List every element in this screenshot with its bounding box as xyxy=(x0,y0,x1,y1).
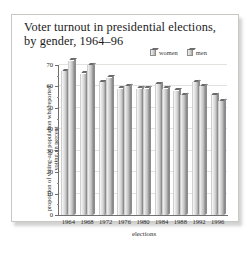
y-axis-tick-label: 30 xyxy=(39,147,53,154)
x-axis-line xyxy=(58,215,228,216)
bar-side-face xyxy=(224,99,226,215)
y-axis-tick xyxy=(55,86,59,87)
y-axis-minor-tick xyxy=(57,161,60,162)
bar-women-1964 xyxy=(61,71,67,215)
bar-women-1992 xyxy=(192,82,198,215)
bar-side-face xyxy=(93,63,95,215)
plot-area xyxy=(59,65,227,215)
bar-men-1964 xyxy=(68,61,74,215)
bar-side-face xyxy=(168,86,170,215)
bar-women-1996 xyxy=(211,95,217,215)
x-axis-tick-label: 1996 xyxy=(207,218,229,225)
x-axis-tick-labels: 196419681972197619801984198819921996 xyxy=(59,218,229,230)
bar-women-1968 xyxy=(80,74,86,215)
bar-side-face xyxy=(112,75,114,215)
chart-legend: women men xyxy=(150,49,207,56)
bar-side-face xyxy=(205,84,207,215)
y-axis-tick-label: 40 xyxy=(39,125,53,132)
y-axis-tick xyxy=(55,151,59,152)
bar-women-1984 xyxy=(155,84,161,215)
y-axis-tick xyxy=(55,65,59,66)
bar-side-face xyxy=(149,86,151,215)
chart-title: Voter turnout in presidential elections,… xyxy=(24,21,230,48)
y-axis-tick-label: 10 xyxy=(39,190,53,197)
bar-swatch-icon xyxy=(150,49,156,56)
bar-women-1980 xyxy=(136,89,142,215)
y-axis-tick-label: 20 xyxy=(39,168,53,175)
bar-men-1984 xyxy=(162,89,168,215)
y-axis-tick xyxy=(55,129,59,130)
bar-men-1968 xyxy=(87,65,93,215)
x-axis-label: elections xyxy=(59,230,229,237)
legend-item-men: men xyxy=(187,49,207,56)
legend-item-women: women xyxy=(150,49,178,56)
y-axis-minor-tick xyxy=(57,97,60,98)
y-axis-minor-tick xyxy=(57,76,60,77)
bar-women-1988 xyxy=(173,91,179,215)
legend-label-women: women xyxy=(159,49,178,56)
y-axis-minor-tick xyxy=(57,204,60,205)
bar-men-1992 xyxy=(199,86,205,215)
y-axis-tick-label: 60 xyxy=(39,82,53,89)
y-axis-tick-labels: 010203040506070 xyxy=(36,15,53,256)
y-axis-minor-tick xyxy=(57,119,60,120)
y-axis-tick-label: 70 xyxy=(39,61,53,68)
y-axis-tick-label: 50 xyxy=(39,104,53,111)
bar-men-1980 xyxy=(143,89,149,215)
bar-women-1976 xyxy=(117,89,123,215)
y-axis-tick-label: 0 xyxy=(39,211,53,218)
gridline xyxy=(59,64,227,65)
legend-label-men: men xyxy=(196,49,207,56)
y-axis-tick xyxy=(55,194,59,195)
bar-men-1976 xyxy=(124,86,130,215)
bar-women-1972 xyxy=(99,82,105,215)
y-axis-tick xyxy=(55,172,59,173)
y-axis-minor-tick xyxy=(57,183,60,184)
bar-men-1972 xyxy=(106,78,112,215)
bar-men-1996 xyxy=(218,101,224,215)
bar-men-1988 xyxy=(180,95,186,215)
y-axis-tick xyxy=(55,215,59,216)
figure-card: Voter turnout in presidential elections,… xyxy=(11,14,239,222)
y-axis-minor-tick xyxy=(57,140,60,141)
bar-swatch-icon xyxy=(187,49,193,56)
y-axis-tick xyxy=(55,108,59,109)
